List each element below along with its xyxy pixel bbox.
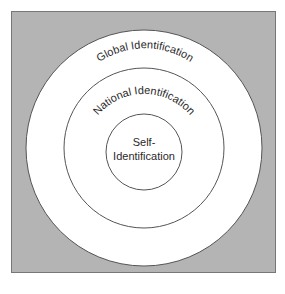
self-label-line2: Identification <box>113 150 175 162</box>
self-label-line1: Self- <box>133 136 156 148</box>
concentric-identification-diagram: Global Identification National Identific… <box>0 0 285 294</box>
